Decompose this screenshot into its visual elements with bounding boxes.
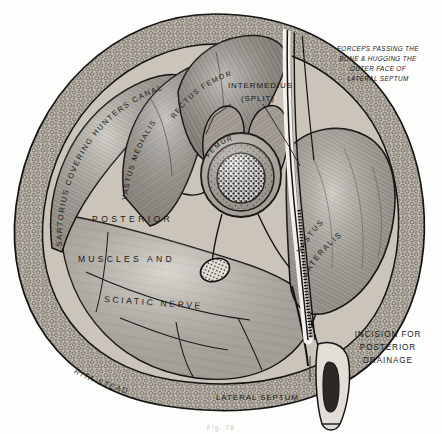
svg-text:DRAINAGE: DRAINAGE: [363, 356, 413, 365]
svg-text:OUTER FACE OF: OUTER FACE OF: [350, 65, 407, 72]
femur-bone: [201, 133, 281, 217]
anatomical-plate: SARTORIUS COVERING HUNTERS CANAL VASTUS …: [0, 0, 442, 434]
svg-text:POSTERIOR: POSTERIOR: [360, 343, 416, 352]
svg-text:BONE & HUGGING THE: BONE & HUGGING THE: [339, 55, 417, 62]
svg-text:LATERAL SEPTUM: LATERAL SEPTUM: [347, 75, 408, 82]
label-intermedius: INTERMEDIUS: [228, 81, 293, 90]
label-muscles-and: MUSCLES AND: [78, 254, 175, 264]
label-lateral-septum: LATERAL SEPTUM: [216, 393, 299, 402]
label-posterior: POSTERIOR: [92, 214, 173, 224]
figure-caption: Fig. 78: [207, 424, 235, 432]
thigh-cross-section-illustration: SARTORIUS COVERING HUNTERS CANAL VASTUS …: [0, 0, 442, 434]
annotation-incision: INCISION FOR POSTERIOR DRAINAGE: [355, 330, 422, 365]
svg-text:FORCEPS PASSING THE: FORCEPS PASSING THE: [337, 45, 419, 52]
svg-text:INCISION FOR: INCISION FOR: [355, 330, 422, 339]
label-intermedius-qualifier: (SPLIT): [241, 94, 275, 103]
